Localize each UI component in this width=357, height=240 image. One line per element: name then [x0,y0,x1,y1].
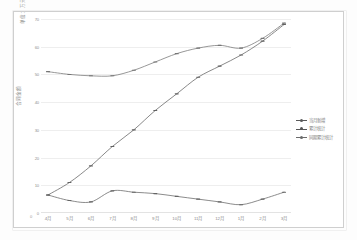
chart-screenshot: 单位： 万元 合同金额 010203040506070 0 4月5月6月7月8月… [0,0,357,240]
legend-item[interactable]: 累计统计 [296,126,354,133]
x-tick-label: 3月 [281,216,287,222]
x-tick-label: 8月 [131,216,137,222]
y-tick-label: 50 [35,72,39,77]
y-tick-label: 10 [35,183,39,188]
legend-line-icon [296,136,307,140]
x-tick-label: 1月 [238,216,244,222]
x-tick-label: 12月 [215,216,224,222]
series-canvas [41,19,291,213]
y-tick-label: 60 [35,44,39,49]
legend-label: 当月新增 [309,118,325,124]
x-tick-label: 9月 [152,216,158,222]
x-axis-origin-label: 0 [30,214,32,219]
x-tick-label: 11月 [194,216,203,222]
legend-label: 同期累计统计 [309,135,333,141]
x-tick-label: 6月 [88,216,94,222]
y-tick-label: 30 [35,127,39,132]
legend-item[interactable]: 同期累计统计 [296,134,354,141]
axis-unit-label: 单位： 万元 [20,0,26,24]
x-tick-label: 2月 [259,216,265,222]
series-line [48,23,284,76]
y-tick-label: 40 [35,100,39,105]
legend-item[interactable]: 当月新增 [296,117,354,124]
legend-line-icon [296,127,307,131]
y-tick-label: 70 [35,17,39,22]
x-axis-ticks: 4月5月6月7月8月9月10月11月12月1月2月3月 [41,216,291,228]
y-tick-label: 20 [35,155,39,160]
legend-label: 累计统计 [309,126,325,132]
series-line [48,190,284,204]
x-tick-label: 7月 [109,216,115,222]
chart-legend: 当月新增累计统计同期累计统计 [296,117,354,143]
x-tick-label: 10月 [172,216,181,222]
legend-line-icon [296,119,307,123]
series-line [48,25,284,195]
x-tick-label: 4月 [45,216,51,222]
plot-area [41,19,291,213]
x-tick-label: 5月 [66,216,72,222]
y-tick-label: 0 [37,211,39,216]
y-axis-ticks: 010203040506070 [26,19,39,213]
y-axis-title: 合同金额 [16,86,22,107]
